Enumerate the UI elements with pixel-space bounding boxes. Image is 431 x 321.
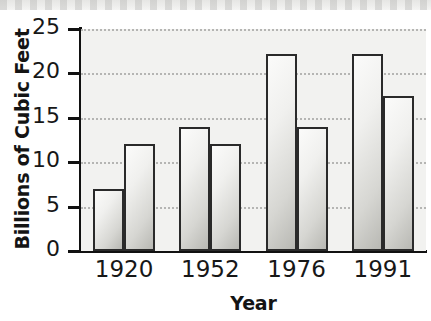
y-tick-10: 10 [68, 161, 81, 164]
y-tick-25: 25 [68, 28, 81, 31]
x-tick-label-1991: 1991 [354, 256, 413, 282]
y-tick-label-5: 5 [46, 192, 60, 217]
bars-group [81, 29, 426, 251]
y-tick-20: 20 [68, 72, 81, 75]
bar-1976-series-2 [297, 127, 328, 251]
x-axis-title: Year [81, 292, 426, 314]
x-tick-label-1976: 1976 [267, 256, 326, 282]
bar-1952-series-2 [210, 144, 241, 251]
y-tick-0: 0 [68, 250, 81, 253]
y-tick-5: 5 [68, 206, 81, 209]
y-tick-label-15: 15 [32, 103, 60, 128]
y-tick-label-10: 10 [32, 147, 60, 172]
x-tick-label-1920: 1920 [95, 256, 154, 282]
y-axis-title: Billions of Cubic Feet [11, 23, 33, 255]
bar-1920-series-1 [93, 189, 124, 251]
x-axis-tick-labels: 1920195219761991 [81, 256, 426, 290]
bar-1976-series-1 [266, 54, 297, 251]
plot-area: 0510152025 [81, 29, 426, 251]
x-tick-label-1952: 1952 [181, 256, 240, 282]
bar-1920-series-2 [124, 144, 155, 251]
y-tick-15: 15 [68, 117, 81, 120]
bar-1991-series-1 [352, 54, 383, 251]
y-tick-label-0: 0 [46, 236, 60, 261]
scan-artifact-band [0, 0, 431, 10]
bar-1991-series-2 [383, 96, 414, 251]
bar-1952-series-1 [179, 127, 210, 251]
y-tick-label-25: 25 [32, 14, 60, 39]
bar-chart: Billions of Cubic Feet 0510152025 192019… [0, 0, 431, 321]
y-tick-label-20: 20 [32, 59, 60, 84]
